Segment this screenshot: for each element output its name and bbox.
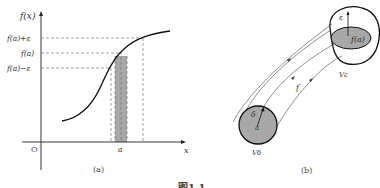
domain-center-label: a xyxy=(255,124,259,132)
caption-a: (a) xyxy=(93,165,104,174)
delta-label: δ xyxy=(251,110,256,119)
mapping-arrow-icons xyxy=(287,58,313,82)
y-tick-center: f(a) xyxy=(20,49,34,58)
mapping-label: f xyxy=(295,83,301,92)
origin-label: O xyxy=(31,145,38,154)
panel-a-graph: f(x) f(a)+ε f(a) f(a)−ε O a x (a) xyxy=(6,11,189,174)
panel-b-diagram: ε f(a) f δ a Vδ Vε (b) xyxy=(233,7,379,175)
tick-a-label: a xyxy=(118,145,122,154)
neighborhood-image-label: Vε xyxy=(339,71,348,79)
figure-caption: 图1.1 xyxy=(178,182,205,188)
y-tick-lower: f(a)−ε xyxy=(6,64,30,73)
neighborhood-domain-label: Vδ xyxy=(252,149,261,157)
caption-b: (b) xyxy=(301,166,312,175)
y-axis-label: f(x) xyxy=(19,11,36,21)
x-axis-label: x xyxy=(184,146,189,155)
x-axis-arrow-icon xyxy=(181,140,186,144)
dashed-guides xyxy=(41,38,143,142)
figure: f(x) f(a)+ε f(a) f(a)−ε O a x (a) ε f(a) xyxy=(0,0,380,188)
epsilon-label: ε xyxy=(339,13,343,22)
image-center-label: f(a) xyxy=(350,35,365,44)
y-tick-upper: f(a)+ε xyxy=(6,34,30,43)
y-axis-arrow-icon xyxy=(39,11,43,16)
